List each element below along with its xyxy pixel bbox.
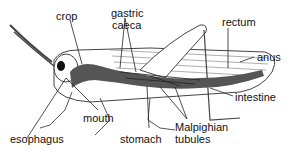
label-rectum: rectum <box>222 17 256 28</box>
label-malpighian-line1: Malpighian <box>175 122 228 133</box>
label-gastric-caeca-line2: caeca <box>112 20 141 31</box>
label-intestine: intestine <box>235 92 276 103</box>
label-malpighian-line2: tubules <box>175 134 210 145</box>
label-crop: crop <box>56 11 77 22</box>
label-mouth: mouth <box>83 113 114 124</box>
label-stomach: stomach <box>120 134 162 145</box>
label-anus: anus <box>257 52 281 63</box>
label-esophagus: esophagus <box>10 134 64 145</box>
label-gastric-caeca-line1: gastric <box>111 8 143 19</box>
grasshopper-diagram: crop gastric caeca rectum anus intestine… <box>0 0 291 155</box>
